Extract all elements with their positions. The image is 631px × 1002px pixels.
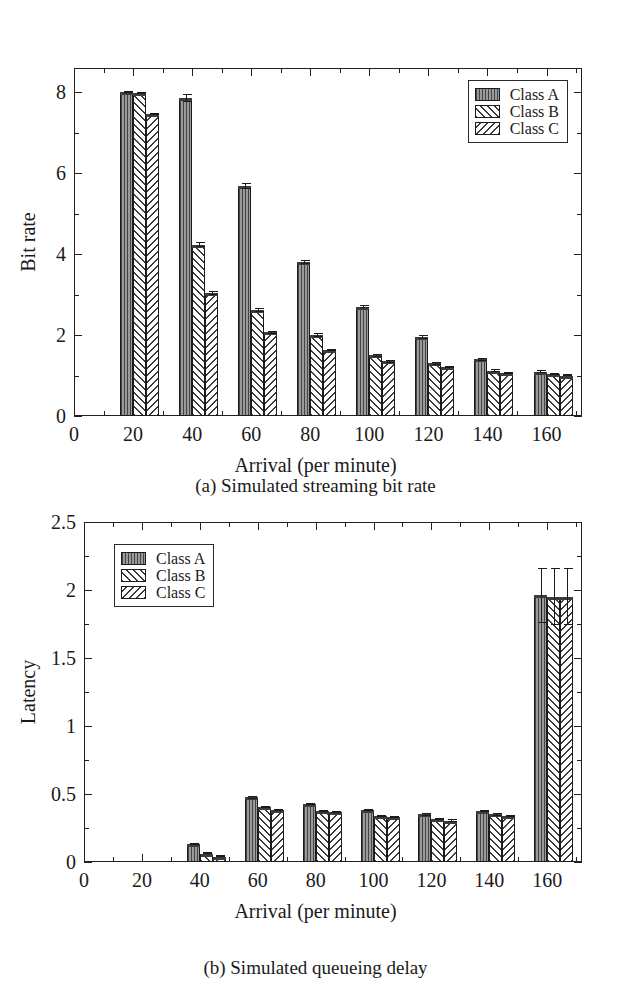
bar-class-c-arrival-140	[502, 816, 515, 862]
x-tick-label-160: 160	[532, 424, 562, 444]
x-tick-minor	[222, 411, 223, 416]
chart-a-y-axis-title: Bit rate	[17, 212, 40, 271]
chart-b-y-axis-title: Latency	[17, 660, 40, 724]
legend-item: Class B	[475, 103, 559, 120]
x-tick-label-80: 80	[300, 424, 320, 444]
error-bar-class-c-arrival-80	[335, 811, 336, 813]
bar-class-a-arrival-80	[297, 262, 310, 416]
x-tick-minor	[340, 68, 341, 73]
error-bar-class-a-arrival-20	[127, 91, 128, 93]
y-tick-major	[84, 522, 92, 523]
x-tick-major	[547, 68, 548, 76]
error-bar-class-b-arrival-100	[380, 815, 381, 817]
chart-a-legend: Class A Class B Class C	[468, 80, 568, 143]
bar-class-a-arrival-60	[245, 797, 258, 862]
bar-class-b-arrival-100	[369, 355, 382, 416]
legend-label-class-b: Class B	[156, 568, 205, 584]
x-tick-label-20: 20	[123, 424, 143, 444]
y-tick-label-1.5: 1.5	[51, 648, 76, 668]
bar-class-a-arrival-140	[474, 359, 487, 416]
x-tick-major	[316, 522, 317, 530]
bar-class-a-arrival-40	[179, 98, 192, 416]
x-tick-minor	[340, 411, 341, 416]
x-tick-label-60: 60	[241, 424, 261, 444]
x-tick-label-100: 100	[354, 424, 384, 444]
y-tick-label-0: 0	[66, 852, 76, 872]
legend-item: Class C	[475, 120, 559, 137]
caption-panel-b: (b) Simulated queueing delay	[0, 957, 631, 979]
x-tick-label-140: 140	[474, 870, 504, 890]
x-tick-minor	[517, 411, 518, 416]
x-tick-major	[547, 854, 548, 862]
y-tick-major	[574, 794, 582, 795]
y-tick-major	[574, 254, 582, 255]
y-tick-minor	[74, 133, 79, 134]
error-bar-class-c-arrival-20	[153, 113, 154, 115]
y-tick-major	[74, 173, 82, 174]
figure-container: Class A Class B Class C 02468 0204060801…	[0, 0, 631, 1002]
y-tick-minor	[577, 295, 582, 296]
y-tick-major	[574, 92, 582, 93]
y-tick-major	[84, 658, 92, 659]
x-tick-label-40: 40	[190, 870, 210, 890]
x-tick-minor	[113, 522, 114, 527]
x-tick-label-60: 60	[248, 870, 268, 890]
legend-label-class-c: Class C	[156, 585, 205, 601]
error-bar-class-b-arrival-140	[494, 369, 495, 371]
x-tick-minor	[576, 411, 577, 416]
error-bar-class-b-arrival-80	[322, 810, 323, 812]
x-tick-label-120: 120	[413, 424, 443, 444]
x-tick-minor	[576, 857, 577, 862]
error-bar-class-a-arrival-40	[193, 843, 194, 845]
x-tick-minor	[399, 411, 400, 416]
legend-label-class-a: Class A	[510, 87, 559, 103]
x-tick-major	[310, 408, 311, 416]
y-tick-minor	[84, 624, 89, 625]
bar-class-c-arrival-60	[271, 810, 284, 862]
x-tick-major	[142, 522, 143, 530]
x-tick-minor	[287, 857, 288, 862]
error-bar-class-a-arrival-100	[367, 809, 368, 811]
y-tick-label-4: 4	[56, 244, 66, 264]
legend-label-class-a: Class A	[156, 551, 205, 567]
bar-class-b-arrival-160	[547, 597, 560, 862]
y-tick-label-6: 6	[56, 163, 66, 183]
error-bar-class-a-arrival-60	[251, 796, 252, 799]
error-bar-class-c-arrival-60	[277, 809, 278, 811]
error-bar-class-c-arrival-160	[567, 568, 568, 625]
bar-class-a-arrival-40	[187, 844, 200, 862]
legend-label-class-c: Class C	[510, 121, 559, 137]
bar-class-b-arrival-60	[251, 310, 264, 416]
error-bar-class-b-arrival-40	[206, 852, 207, 854]
bar-class-c-arrival-140	[500, 373, 513, 416]
bar-class-b-arrival-60	[258, 807, 271, 862]
error-bar-class-b-arrival-160	[554, 568, 555, 625]
x-tick-major	[487, 408, 488, 416]
x-tick-major	[369, 408, 370, 416]
bar-class-b-arrival-140	[487, 371, 500, 416]
x-tick-major	[428, 408, 429, 416]
y-tick-label-2: 2	[66, 580, 76, 600]
y-tick-minor	[577, 760, 582, 761]
legend-swatch-class-c	[121, 586, 146, 599]
y-tick-major	[84, 862, 92, 863]
bar-class-c-arrival-120	[444, 821, 457, 862]
y-tick-minor	[577, 133, 582, 134]
error-bar-class-a-arrival-140	[483, 810, 484, 812]
legend-item: Class C	[121, 584, 205, 601]
error-bar-class-b-arrival-160	[553, 373, 554, 375]
error-bar-class-c-arrival-120	[451, 819, 452, 821]
y-tick-minor	[577, 376, 582, 377]
error-bar-class-b-arrival-80	[317, 333, 318, 336]
bar-class-c-arrival-60	[264, 332, 277, 416]
error-bar-class-b-arrival-100	[376, 354, 377, 356]
x-tick-minor	[281, 68, 282, 73]
error-bar-class-c-arrival-60	[271, 331, 272, 334]
bar-class-c-arrival-20	[146, 114, 159, 416]
error-bar-class-c-arrival-100	[393, 816, 394, 818]
x-tick-minor	[281, 411, 282, 416]
y-tick-minor	[84, 692, 89, 693]
bar-class-c-arrival-100	[382, 361, 395, 416]
x-tick-minor	[458, 68, 459, 73]
x-tick-label-140: 140	[472, 424, 502, 444]
